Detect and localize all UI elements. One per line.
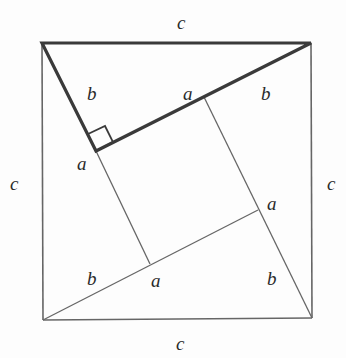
label-left-a: a (77, 153, 87, 174)
label-upper-left-b: b (87, 83, 97, 104)
label-upper-mid-a: a (183, 83, 193, 104)
background (0, 0, 346, 358)
label-right-c: c (327, 173, 336, 194)
pythagorean-diagram: c c c c b a b a a b a b (0, 0, 346, 358)
label-upper-right-b: b (261, 83, 271, 104)
outer-right-side (311, 43, 312, 318)
outer-left-side (42, 43, 43, 320)
label-left-c: c (10, 173, 19, 194)
label-bottom-c: c (176, 333, 185, 354)
label-lower-right-b: b (267, 268, 277, 289)
label-lower-mid-a: a (151, 270, 161, 291)
label-lower-left-b: b (87, 268, 97, 289)
label-top-c: c (177, 12, 186, 33)
label-right-a: a (267, 193, 277, 214)
